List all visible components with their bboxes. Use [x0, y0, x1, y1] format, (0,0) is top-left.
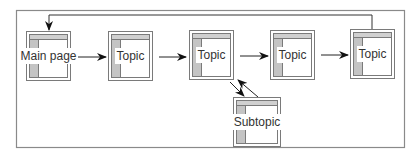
node-main-page[interactable]: Main page [26, 31, 71, 81]
node-topic-2[interactable]: Topic [189, 30, 234, 80]
return-arrow [49, 15, 372, 30]
node-subtopic[interactable]: Subtopic [233, 97, 281, 147]
node-label: Topic [277, 47, 307, 63]
node-label: Topic [357, 46, 387, 62]
node-topic-3[interactable]: Topic [270, 30, 315, 80]
node-label: Topic [196, 47, 226, 63]
node-label: Subtopic [233, 114, 282, 130]
diagram-connectors [0, 0, 417, 163]
node-topic-1[interactable]: Topic [108, 31, 153, 81]
arrow-topic2-subtopic [230, 82, 244, 96]
node-label: Main page [19, 48, 77, 64]
arrow-subtopic-topic2 [238, 80, 258, 97]
node-label: Topic [115, 48, 145, 64]
node-topic-4[interactable]: Topic [350, 29, 395, 79]
